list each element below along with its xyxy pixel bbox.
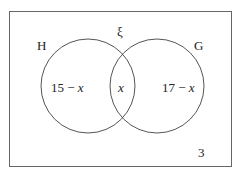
region-outside: 3 (198, 146, 205, 159)
set-g-label: G (194, 39, 203, 52)
universal-set-symbol: ξ (117, 25, 123, 38)
region-intersection: x (118, 81, 124, 94)
region-h-only: 15 − x (51, 81, 84, 94)
set-h-label: H (37, 39, 46, 52)
region-g-only: 17 − x (162, 81, 195, 94)
